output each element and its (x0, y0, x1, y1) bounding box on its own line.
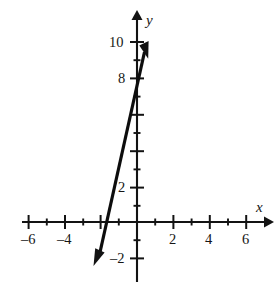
x-tick-label-6: 6 (242, 232, 249, 247)
x-axis-label: x (256, 200, 263, 215)
y-tick-label-10: 10 (109, 35, 124, 50)
coordinate-plane-figure: –6 –4 2 4 6 10 8 2 –2 x y (0, 0, 278, 292)
plotted-line-arrowhead-down (94, 248, 105, 266)
x-tick-label-neg4: –4 (57, 232, 72, 247)
x-tick-label-2: 2 (169, 232, 176, 247)
x-axis-arrowhead (264, 217, 274, 228)
x-tick-label-4: 4 (205, 232, 212, 247)
y-tick-label-2: 2 (118, 180, 125, 195)
x-axis-group (22, 215, 274, 229)
graph-canvas (0, 0, 278, 292)
y-axis-arrowhead (132, 10, 143, 20)
y-axis-label: y (146, 13, 153, 28)
y-axis-group (130, 10, 144, 282)
y-tick-label-8: 8 (118, 71, 125, 86)
x-tick-label-neg6: –6 (21, 232, 36, 247)
y-tick-label-neg2: –2 (110, 251, 125, 266)
